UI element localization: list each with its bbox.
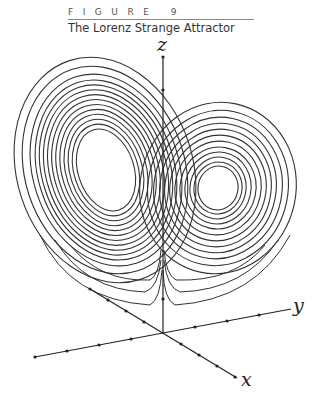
left-lobe [0,33,224,306]
x-axis-label: x [241,368,252,390]
lorenz-attractor-plot: z y x [0,0,320,398]
z-axis-label: z [156,33,168,55]
y-axis-label: y [292,294,304,316]
